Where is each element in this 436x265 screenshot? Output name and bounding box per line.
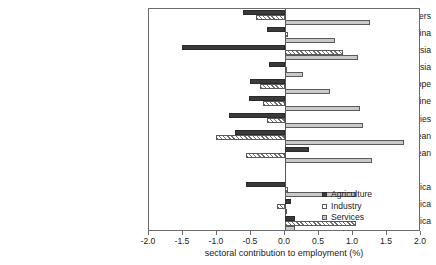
bar-industry — [216, 135, 285, 140]
legend-label-services: Services — [331, 212, 364, 224]
x-axis-tick — [182, 231, 183, 235]
legend-item-industry: Industry — [322, 201, 372, 213]
bar-services — [285, 55, 358, 60]
bar-agriculture — [285, 199, 291, 204]
bar-industry — [267, 118, 285, 123]
bar-services — [285, 72, 303, 77]
x-axis-tick — [216, 231, 217, 235]
bar-services — [285, 89, 330, 94]
bar-services — [285, 209, 287, 214]
bar-industry — [246, 153, 285, 158]
legend-item-services: Services — [322, 212, 372, 224]
chart-legend: Agriculture Industry Services — [322, 189, 372, 224]
plot-area — [148, 8, 420, 231]
x-axis-tick — [420, 231, 421, 235]
bar-services — [285, 38, 335, 43]
bar-agriculture — [182, 45, 285, 50]
bar-services — [285, 20, 370, 25]
x-axis-tick — [318, 231, 319, 235]
legend-label-agriculture: Agriculture — [331, 189, 372, 201]
x-axis-title: sectoral contribution to employment (%) — [148, 248, 420, 258]
x-axis-tick-label: 2.0 — [400, 236, 436, 246]
bar-agriculture — [246, 182, 285, 187]
bar-services — [285, 106, 360, 111]
bar-services — [285, 140, 404, 145]
bar-services — [285, 158, 372, 163]
legend-swatch-industry-icon — [322, 204, 327, 209]
bar-agriculture — [267, 27, 285, 32]
legend-swatch-services-icon — [322, 215, 327, 220]
legend-item-agriculture: Agriculture — [322, 189, 372, 201]
bar-agriculture — [269, 62, 285, 67]
x-axis-tick — [386, 231, 387, 235]
bar-services — [285, 226, 295, 231]
x-axis-tick — [352, 231, 353, 235]
bar-industry — [277, 204, 285, 209]
bar-industry — [263, 101, 285, 106]
bar-services — [285, 123, 363, 128]
x-axis-tick — [284, 231, 285, 235]
bar-industry — [260, 84, 285, 89]
bar-industry — [256, 15, 285, 20]
x-axis-tick — [250, 231, 251, 235]
bar-agriculture — [285, 147, 309, 152]
legend-label-industry: Industry — [331, 201, 362, 213]
x-axis-tick — [148, 231, 149, 235]
legend-swatch-agriculture-icon — [322, 192, 327, 197]
